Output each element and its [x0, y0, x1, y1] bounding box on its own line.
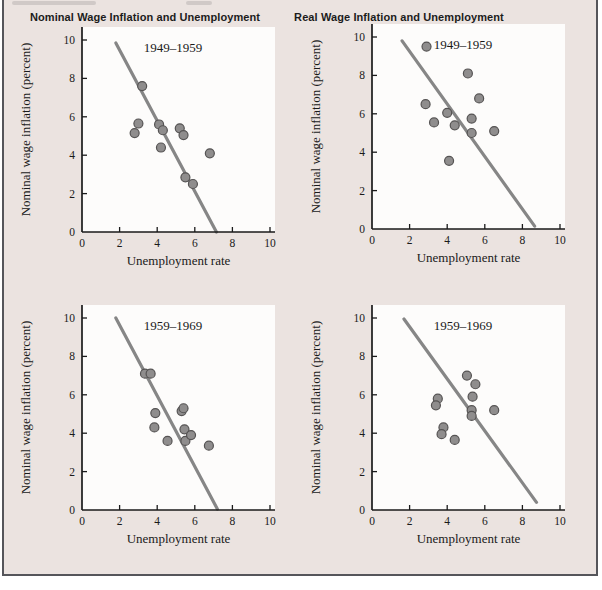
x-tick-label: 8 [230, 515, 236, 527]
x-tick-label: 10 [264, 515, 276, 527]
y-tick-label: 10 [64, 312, 76, 324]
y-tick-label: 2 [359, 466, 365, 478]
data-point [130, 129, 139, 138]
data-point [462, 371, 471, 380]
data-point [468, 392, 477, 401]
y-tick-label: 2 [69, 466, 75, 478]
y-tick-label: 4 [359, 146, 365, 158]
data-point [163, 436, 172, 445]
scatter-panel-real-1959-1969: 024681002468101959–1969Unemployment rate… [302, 303, 592, 568]
x-tick-label: 8 [520, 515, 526, 527]
data-point [490, 127, 499, 136]
x-tick-label: 4 [444, 234, 450, 246]
y-tick-label: 0 [69, 226, 75, 238]
x-tick-label: 10 [554, 234, 566, 246]
data-point [146, 369, 155, 378]
x-tick-label: 6 [192, 515, 198, 527]
data-point [179, 131, 188, 140]
period-label: 1959–1969 [144, 318, 203, 333]
column-title-nominal: Nominal Wage Inflation and Unemployment [30, 11, 260, 23]
data-point [150, 423, 159, 432]
x-tick-label: 4 [154, 237, 160, 249]
scatter-panel-real-1949-1959: 024681002468101949–1959Unemployment rate… [302, 22, 592, 287]
y-tick-label: 10 [354, 312, 366, 324]
y-tick-label: 10 [64, 34, 76, 46]
y-tick-label: 4 [359, 427, 365, 439]
data-point [445, 156, 454, 165]
x-tick-label: 8 [230, 237, 236, 249]
scatter-panel-nominal-1949-1959: 024681002468101949–1959Unemployment rate… [12, 25, 302, 290]
x-tick-label: 4 [444, 515, 450, 527]
data-point [443, 108, 452, 117]
x-tick-label: 2 [117, 515, 123, 527]
scatter-panel-nominal-1959-1969: 024681002468101959–1969Unemployment rate… [12, 303, 302, 568]
x-tick-label: 6 [482, 515, 488, 527]
data-point [151, 409, 160, 418]
x-tick-label: 10 [264, 237, 276, 249]
data-point [421, 100, 430, 109]
data-point [463, 69, 472, 78]
y-axis-title: Nominal wage inflation (percent) [308, 321, 323, 495]
x-tick-label: 8 [520, 234, 526, 246]
data-point [188, 180, 197, 189]
data-point [475, 94, 484, 103]
y-tick-label: 10 [354, 31, 366, 43]
data-point [158, 126, 167, 135]
data-point [422, 42, 431, 51]
data-point [471, 380, 480, 389]
data-point [181, 173, 190, 182]
y-tick-label: 8 [69, 72, 75, 84]
cropped-text-fragment [12, 1, 96, 5]
y-axis-title: Nominal wage inflation (percent) [308, 40, 323, 214]
y-tick-label: 6 [359, 389, 365, 401]
y-tick-label: 6 [359, 108, 365, 120]
period-label: 1959–1969 [434, 318, 493, 333]
data-point [431, 401, 440, 410]
screenshot-root: Nominal Wage Inflation and Unemployment … [0, 0, 602, 590]
x-axis-title: Unemployment rate [127, 531, 231, 546]
x-tick-label: 0 [369, 234, 375, 246]
x-tick-label: 0 [79, 237, 85, 249]
data-point [134, 119, 143, 128]
plot-area [372, 24, 565, 229]
x-tick-label: 6 [482, 234, 488, 246]
data-point [450, 121, 459, 130]
x-tick-label: 0 [79, 515, 85, 527]
y-axis-title: Nominal wage inflation (percent) [18, 43, 33, 217]
data-point [490, 406, 499, 415]
y-tick-label: 4 [69, 427, 75, 439]
y-tick-label: 2 [359, 185, 365, 197]
x-tick-label: 2 [117, 237, 123, 249]
x-axis-title: Unemployment rate [127, 253, 231, 268]
y-axis-title: Nominal wage inflation (percent) [18, 321, 33, 495]
period-label: 1949–1959 [434, 37, 493, 52]
data-point [138, 82, 147, 91]
x-axis-title: Unemployment rate [417, 250, 521, 265]
data-point [467, 129, 476, 138]
y-tick-label: 0 [359, 223, 365, 235]
y-tick-label: 2 [69, 188, 75, 200]
period-label: 1949–1959 [144, 40, 203, 55]
cropped-text-fragment [186, 1, 212, 5]
x-tick-label: 4 [154, 515, 160, 527]
data-point [467, 411, 476, 420]
data-point [156, 143, 165, 152]
data-point [204, 441, 213, 450]
data-point [430, 118, 439, 127]
data-point [467, 114, 476, 123]
data-point [437, 430, 446, 439]
y-tick-label: 4 [69, 149, 75, 161]
x-tick-label: 2 [407, 234, 413, 246]
x-axis-title: Unemployment rate [417, 531, 521, 546]
x-tick-label: 2 [407, 515, 413, 527]
data-point [187, 431, 196, 440]
y-tick-label: 8 [69, 350, 75, 362]
x-tick-label: 10 [554, 515, 566, 527]
x-tick-label: 0 [369, 515, 375, 527]
data-point [179, 404, 188, 413]
y-tick-label: 0 [359, 504, 365, 516]
y-tick-label: 6 [69, 111, 75, 123]
x-tick-label: 6 [192, 237, 198, 249]
y-tick-label: 8 [359, 69, 365, 81]
data-point [450, 435, 459, 444]
